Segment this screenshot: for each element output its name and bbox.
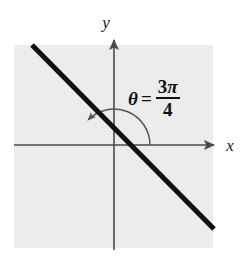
- angle-fraction: 3π 4: [156, 77, 180, 119]
- y-axis-label: y: [100, 13, 110, 32]
- angle-diagram-figure: y x θ = 3π 4: [0, 0, 247, 257]
- fraction-numerator: 3π: [156, 77, 180, 97]
- theta-symbol: θ: [128, 89, 138, 108]
- diagram-canvas: y x: [0, 0, 247, 257]
- x-axis-label: x: [225, 136, 234, 155]
- equals-sign: =: [141, 89, 152, 108]
- angle-label: θ = 3π 4: [128, 77, 180, 119]
- pi-symbol: π: [167, 76, 177, 97]
- fraction-denominator: 4: [161, 99, 175, 119]
- numerator-coefficient: 3: [158, 76, 168, 97]
